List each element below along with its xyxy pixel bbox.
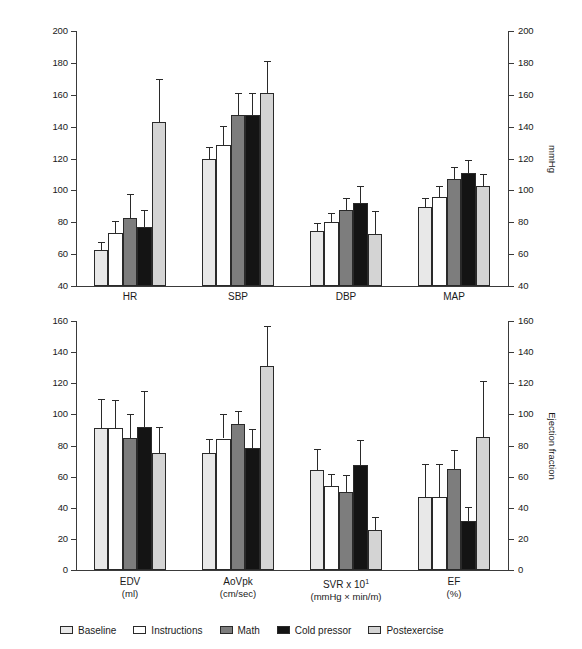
bar-sbp-cold-pressor xyxy=(245,115,260,286)
error-bar-cap xyxy=(328,213,335,214)
error-bar-stem xyxy=(101,399,102,429)
error-bar-stem xyxy=(144,210,145,227)
error-bar-stem xyxy=(115,221,116,234)
legend-item-cold-pressor[interactable]: Cold pressor xyxy=(277,625,352,636)
y-tick-right xyxy=(509,446,514,447)
bar-svr-x-10-instructions xyxy=(324,486,339,570)
y-tick-right xyxy=(509,539,514,540)
y-axis-title-right: Ejection fraction xyxy=(547,386,557,506)
error-bar xyxy=(152,79,167,122)
error-bar-stem xyxy=(267,326,268,367)
y-tick-right xyxy=(509,352,514,353)
error-bar-cap xyxy=(127,414,134,415)
y-tick-left xyxy=(71,383,76,384)
error-bar-cap xyxy=(357,440,364,441)
error-bar xyxy=(260,326,275,367)
y-tick-label-right: 140 xyxy=(518,347,558,357)
error-bar xyxy=(231,411,246,423)
x-axis xyxy=(76,570,509,571)
bar-hr-cold-pressor xyxy=(137,227,152,286)
bar-dbp-cold-pressor xyxy=(353,203,368,286)
legend-swatch-icon xyxy=(133,626,146,634)
error-bar xyxy=(245,429,260,448)
error-bar-stem xyxy=(209,147,210,159)
error-bar xyxy=(432,464,447,497)
y-tick-label-left: 0 xyxy=(26,565,68,575)
y-tick-label-left: 80 xyxy=(26,441,68,451)
error-bar-cap xyxy=(264,61,271,62)
legend-item-math[interactable]: Math xyxy=(220,625,260,636)
bar-map-math xyxy=(447,179,462,286)
error-bar xyxy=(108,400,123,428)
legend-item-postexercise[interactable]: Postexercise xyxy=(368,625,443,636)
y-tick-label-left: 100 xyxy=(26,409,68,419)
error-bar-stem xyxy=(252,93,253,115)
error-bar-stem xyxy=(360,186,361,203)
error-bar-cap xyxy=(343,475,350,476)
error-bar-stem xyxy=(454,450,455,469)
legend-item-label: Cold pressor xyxy=(295,625,352,636)
bar-edv-baseline xyxy=(94,428,109,570)
error-bar-cap xyxy=(451,167,458,168)
bar-map-cold-pressor xyxy=(461,173,476,286)
error-bar-stem xyxy=(267,61,268,93)
legend-item-label: Instructions xyxy=(151,625,202,636)
error-bar-cap xyxy=(206,439,213,440)
error-bar-cap xyxy=(328,474,335,475)
bar-map-postexercise xyxy=(476,186,491,286)
error-bar-cap xyxy=(480,174,487,175)
bar-dbp-baseline xyxy=(310,231,325,286)
bar-hr-instructions xyxy=(108,233,123,286)
y-tick-label-right: 160 xyxy=(518,316,558,326)
error-bar xyxy=(476,381,491,437)
error-bar-cap xyxy=(98,242,105,243)
error-bar xyxy=(310,449,325,469)
error-bar-stem xyxy=(252,429,253,448)
y-tick-left xyxy=(71,539,76,540)
bar-svr-x-10-baseline xyxy=(310,470,325,570)
error-bar-cap xyxy=(220,126,227,127)
bar-sbp-baseline xyxy=(202,159,217,286)
error-bar-stem xyxy=(144,391,145,427)
legend-item-label: Math xyxy=(238,625,260,636)
y-tick-left xyxy=(71,446,76,447)
y-tick-left xyxy=(71,414,76,415)
error-bar-cap xyxy=(422,198,429,199)
error-bar-stem xyxy=(159,79,160,122)
bar-ef-cold-pressor xyxy=(461,521,476,570)
bar-ef-math xyxy=(447,469,462,570)
bar-dbp-postexercise xyxy=(368,234,383,286)
y-tick-right xyxy=(509,570,514,571)
bar-hr-baseline xyxy=(94,250,109,286)
error-bar xyxy=(231,93,246,115)
error-bar-stem xyxy=(346,198,347,210)
error-bar-cap xyxy=(357,186,364,187)
error-bar-stem xyxy=(238,411,239,423)
error-bar-cap xyxy=(156,427,163,428)
bar-ef-baseline xyxy=(418,497,433,570)
error-bar xyxy=(447,450,462,469)
error-bar-cap xyxy=(372,517,379,518)
error-bar xyxy=(216,126,231,145)
bar-dbp-instructions xyxy=(324,222,339,286)
y-tick-left xyxy=(71,352,76,353)
bar-dbp-math xyxy=(339,210,354,286)
legend-item-instructions[interactable]: Instructions xyxy=(133,625,202,636)
y-tick-right xyxy=(509,477,514,478)
error-bar-cap xyxy=(465,507,472,508)
error-bar xyxy=(353,186,368,203)
legend-item-baseline[interactable]: Baseline xyxy=(60,625,116,636)
error-bar xyxy=(461,507,476,521)
bar-edv-postexercise xyxy=(152,453,167,570)
y-tick-right xyxy=(509,508,514,509)
error-bar-stem xyxy=(439,464,440,497)
error-bar-cap xyxy=(112,221,119,222)
y-tick-label-right: 20 xyxy=(518,534,558,544)
legend-swatch-icon xyxy=(220,626,233,634)
bar-edv-math xyxy=(123,438,138,570)
y-tick-left xyxy=(71,570,76,571)
error-bar xyxy=(123,414,138,437)
error-bar xyxy=(418,464,433,497)
y-tick-right xyxy=(509,383,514,384)
legend-item-label: Postexercise xyxy=(386,625,443,636)
